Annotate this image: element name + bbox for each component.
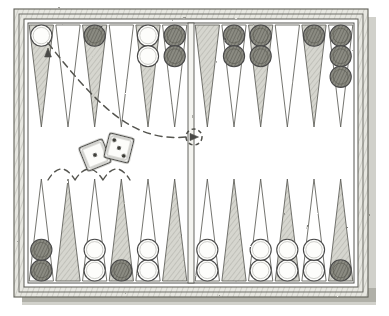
checker-dark-point-6[interactable] [164,46,185,67]
checker-white-point-14[interactable] [303,239,324,260]
checker-white-point-20[interactable] [137,260,158,281]
backgammon-board-illustration [0,0,389,316]
checker-dark-point-6[interactable] [164,25,185,46]
checker-white-point-5[interactable] [137,25,158,46]
checker-white-point-20[interactable] [137,239,158,260]
backgammon-board-figure [0,0,389,316]
checker-dark-point-11[interactable] [303,25,324,46]
checker-white-point-14[interactable] [303,260,324,281]
checker-dark-point-21[interactable] [111,260,132,281]
checker-white-point-22[interactable] [84,239,105,260]
checker-white-point-18[interactable] [197,239,218,260]
checker-dark-point-3[interactable] [84,25,105,46]
checker-white-point-18[interactable] [197,260,218,281]
die-right[interactable] [104,133,134,163]
checker-dark-point-8[interactable] [223,25,244,46]
checker-dark-point-12[interactable] [330,25,351,46]
checker-dark-point-13[interactable] [330,260,351,281]
center-bar [188,23,194,283]
checker-white-point-15[interactable] [277,260,298,281]
checker-dark-point-9[interactable] [250,25,271,46]
checker-white-point-5[interactable] [137,46,158,67]
checker-dark-point-8[interactable] [223,46,244,67]
checker-dark-point-24[interactable] [31,239,52,260]
checker-white-point-22[interactable] [84,260,105,281]
checker-white-point-16[interactable] [250,260,271,281]
checker-dark-point-24[interactable] [31,260,52,281]
checker-dark-point-12[interactable] [330,66,351,87]
checker-white-point-16[interactable] [250,239,271,260]
checker-dark-point-12[interactable] [330,46,351,67]
checker-white-point-15[interactable] [277,239,298,260]
checker-dark-point-9[interactable] [250,46,271,67]
